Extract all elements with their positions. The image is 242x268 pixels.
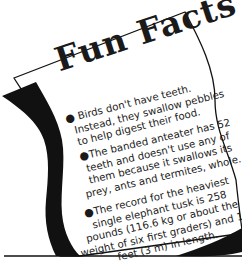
title: Fun Facts	[50, 0, 241, 79]
